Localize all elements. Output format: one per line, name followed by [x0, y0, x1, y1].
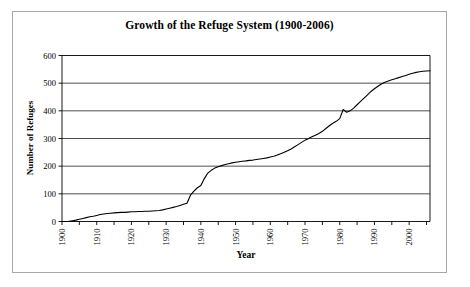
- y-axis-ticks: 0100200300400500600: [43, 51, 62, 227]
- x-tick-label: 1970: [300, 229, 310, 246]
- y-axis-label: Number of Refuges: [25, 100, 35, 175]
- chart-figure: Growth of the Refuge System (1900-2006) …: [0, 0, 470, 287]
- gridlines: [62, 56, 430, 222]
- x-tick-label: 1960: [265, 229, 275, 246]
- y-tick-label: 300: [43, 134, 56, 144]
- x-tick-label: 1900: [57, 229, 67, 246]
- y-tick-label: 200: [43, 161, 56, 171]
- y-tick-label: 0: [52, 217, 56, 227]
- x-tick-label: 1940: [196, 229, 206, 246]
- y-tick-label: 600: [43, 51, 56, 61]
- x-tick-label: 2000: [404, 229, 414, 246]
- x-tick-label: 1920: [126, 229, 136, 246]
- x-tick-label: 1950: [231, 229, 241, 246]
- plot-area: 0100200300400500600 19001910192019301940…: [0, 0, 470, 287]
- y-tick-label: 500: [43, 78, 56, 88]
- x-tick-label: 1980: [335, 229, 345, 246]
- y-tick-label: 400: [43, 106, 56, 116]
- x-axis-label: Year: [237, 250, 257, 260]
- y-tick-label: 100: [43, 189, 56, 199]
- x-tick-label: 1930: [161, 229, 171, 246]
- x-axis-ticks: 1900191019201930194019501960197019801990…: [57, 222, 427, 246]
- data-series-line: [62, 71, 430, 222]
- x-tick-label: 1990: [369, 229, 379, 246]
- x-tick-label: 1910: [92, 229, 102, 246]
